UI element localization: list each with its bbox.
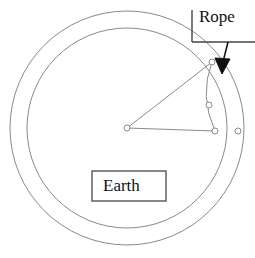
rope-label: Rope <box>199 8 235 25</box>
center-node <box>124 125 130 131</box>
outer-circle-node <box>235 128 241 134</box>
rope-arrowhead-icon <box>215 58 230 74</box>
diagram-svg <box>0 0 255 258</box>
rope-bottom-node <box>212 128 218 134</box>
radius-line-upper <box>127 62 212 128</box>
rope-mid-node <box>206 102 212 108</box>
diagram-canvas: Rope Earth <box>0 0 255 258</box>
radius-line-lower <box>127 128 215 131</box>
earth-label: Earth <box>103 177 140 194</box>
rope-top-node <box>209 59 215 65</box>
